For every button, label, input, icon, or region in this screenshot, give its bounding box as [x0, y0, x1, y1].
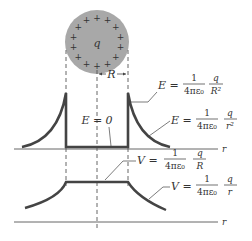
svg-text:4πε₀: 4πε₀ [165, 161, 185, 171]
svg-text:q: q [227, 174, 233, 184]
potential-curve [25, 182, 166, 210]
plus-sign: + [83, 59, 91, 69]
plus-sign: + [112, 52, 120, 62]
plus-sign: + [83, 15, 91, 25]
svg-text:q: q [227, 108, 233, 118]
plus-sign: + [117, 42, 125, 52]
plus-sign: + [70, 32, 78, 42]
plus-sign: + [70, 42, 78, 52]
svg-text:1: 1 [204, 174, 210, 184]
svg-text:1: 1 [172, 148, 178, 158]
plus-sign: + [104, 15, 112, 25]
charged-sphere-diagram: ++++++++++++++ q R r E = 0 E = 1 4πε₀ q … [0, 0, 252, 241]
svg-text:r: r [228, 187, 233, 197]
v-axis-r-label: r [222, 217, 227, 227]
svg-text:E =: E = [157, 79, 179, 92]
charge-label: q [93, 37, 100, 50]
svg-text:q: q [197, 148, 203, 158]
svg-text:4πε₀: 4πε₀ [197, 187, 217, 197]
e-zero-label: E = 0 [80, 114, 112, 127]
plus-sign: + [117, 32, 125, 42]
v-inside-formula: V = 1 4πε₀ q R [137, 148, 206, 171]
plus-sign: + [93, 61, 101, 71]
guide-lines [66, 50, 128, 230]
charged-sphere: ++++++++++++++ q [65, 10, 129, 74]
svg-text:4πε₀: 4πε₀ [197, 121, 217, 131]
svg-text:r²: r² [226, 121, 234, 131]
e-outside-formula: E = 1 4πε₀ q r² [170, 108, 237, 131]
v-outside-formula: V = 1 4πε₀ q r [171, 174, 237, 197]
e-axis-r-label: r [222, 144, 227, 154]
e-surface-formula: E = 1 4πε₀ q R² [157, 73, 223, 96]
svg-text:4πε₀: 4πε₀ [184, 86, 204, 96]
radius-label: R [106, 68, 115, 81]
svg-text:1: 1 [204, 108, 210, 118]
plus-sign: + [74, 22, 82, 32]
svg-text:q: q [213, 73, 219, 83]
svg-text:E =: E = [170, 114, 192, 127]
svg-text:R²: R² [210, 86, 222, 96]
plus-sign: + [112, 22, 120, 32]
svg-text:V =: V = [171, 180, 192, 193]
svg-text:1: 1 [191, 73, 197, 83]
e-zero-leader [109, 127, 111, 146]
plus-sign: + [93, 13, 101, 23]
svg-text:V =: V = [137, 154, 158, 167]
svg-text:R: R [196, 161, 204, 171]
plus-sign: + [74, 52, 82, 62]
